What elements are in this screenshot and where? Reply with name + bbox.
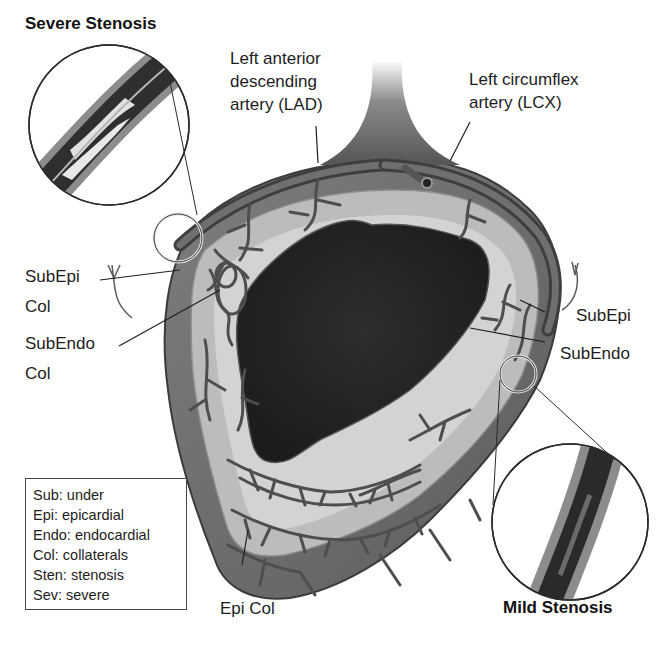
subepi-col-label-line2: Col	[25, 296, 51, 318]
subendo-col-label-line1: SubEndo	[25, 333, 95, 355]
severe-stenosis-title: Severe Stenosis	[25, 14, 156, 34]
subepi-col-label-line1: SubEpi	[25, 266, 80, 288]
mild-stenosis-title: Mild Stenosis	[503, 598, 613, 618]
epi-col-label: Epi Col	[220, 598, 275, 620]
coronary-root	[320, 60, 460, 165]
lad-label-line3: artery (LAD)	[230, 94, 323, 116]
legend-item-epi: Epi: epicardial	[33, 505, 186, 525]
lcx-label-line2: artery (LCX)	[469, 92, 562, 114]
abbreviation-legend: Sub: under Epi: epicardial Endo: endocar…	[25, 478, 187, 610]
subepi-label: SubEpi	[576, 305, 631, 327]
severe-stenosis-magnifier	[29, 40, 202, 262]
legend-item-endo: Endo: endocardial	[33, 525, 186, 545]
legend-item-sev: Sev: severe	[33, 585, 186, 605]
subendo-label: SubEndo	[560, 343, 630, 365]
legend-item-sub: Sub: under	[33, 485, 186, 505]
legend-item-sten: Sten: stenosis	[33, 565, 186, 585]
lcx-label-line1: Left circumflex	[469, 69, 579, 91]
lad-label-line2: descending	[230, 71, 317, 93]
subendo-col-label-line2: Col	[25, 363, 51, 385]
legend-item-col: Col: collaterals	[33, 545, 186, 565]
lad-label-line1: Left anterior	[230, 48, 321, 70]
